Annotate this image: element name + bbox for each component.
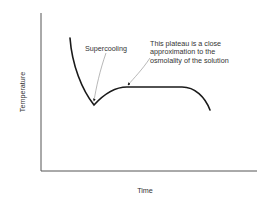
plateau-annotation-line-3: osmolality of the solution (150, 57, 229, 65)
cooling-curve-diagram: Temperature Time Supercooling This plate… (0, 0, 274, 197)
x-axis-label: Time (137, 186, 153, 195)
plateau-pointer-arrow (128, 58, 150, 85)
supercooling-annotation: Supercooling (85, 45, 127, 53)
y-axis-label: Temperature (18, 72, 27, 112)
plateau-annotation: This plateau is a close approximation to… (150, 40, 229, 65)
diagram-canvas (0, 0, 274, 197)
supercooling-pointer-arrow (94, 53, 106, 101)
